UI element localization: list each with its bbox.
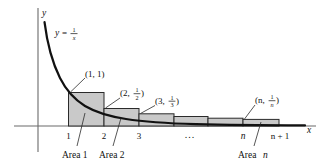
area-n-label-index: n [263,150,268,160]
figure-container: y x y = 1 x (1, 1) (2, [0,0,328,167]
equation-lhs: y [54,28,60,38]
equation-equals: = [62,28,67,38]
area-1-label: Area 1 [62,150,88,160]
point-label-1-1: (1, 1) [85,69,105,79]
point-label-3-third-denominator: 3 [170,101,173,108]
y-axis-label: y [41,8,47,18]
equation-numerator: 1 [72,26,75,33]
point-label-3-third-numerator: 1 [170,94,173,101]
point-label-2-half-lead: (2, [120,88,130,98]
point-label-2-half-denominator: 2 [135,94,138,101]
area-n-label-text: Area [238,150,257,160]
point-label-n-over-n-numerator: 1 [270,93,273,100]
x-tick-label-n-plus-1: n + 1 [271,131,290,141]
x-tick-label-3: 3 [137,131,142,141]
x-tick-label-n: n [241,131,246,141]
area-2-label: Area 2 [99,150,125,160]
x-tick-label-1: 1 [66,131,71,141]
figure-background [0,0,328,167]
point-label-2-half-numerator: 1 [135,86,138,93]
equation-denominator: x [72,34,76,41]
point-label-3-third-close: ) [176,96,179,106]
ellipsis-label: ... [185,129,196,140]
point-label-3-third-lead: (3, [155,96,165,106]
harmonic-series-diagram: y x y = 1 x (1, 1) (2, [0,0,328,167]
point-label-n-over-n-lead: (n, [255,95,265,105]
point-label-2-half-close: ) [141,88,144,98]
point-label-n-over-n-denominator: n [270,101,273,108]
x-axis-label: x [306,125,312,135]
x-tick-label-2: 2 [102,131,107,141]
point-label-n-over-n-close: ) [276,95,279,105]
